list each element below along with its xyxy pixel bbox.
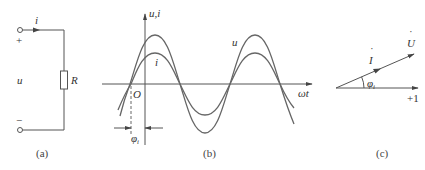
caption-c: (c)	[376, 147, 389, 160]
phase-angle-label: φi	[367, 77, 375, 91]
circuit-panel: i + − u R (a)	[16, 14, 78, 160]
top-terminal	[18, 28, 23, 33]
voltage-dot: ˙	[409, 28, 413, 40]
bottom-terminal	[18, 128, 23, 133]
resistor	[61, 71, 68, 89]
voltage-label: u	[17, 74, 23, 86]
y-axis-label: u,i	[149, 7, 160, 19]
u-curve-label: u	[232, 36, 238, 48]
i-curve-label: i	[155, 56, 158, 68]
resistor-label: R	[70, 74, 78, 86]
current-label: i	[35, 14, 38, 26]
real-axis-label: +1	[407, 92, 419, 104]
current-dot: ˙	[370, 45, 374, 57]
caption-b: (b)	[203, 147, 216, 160]
origin-label: O	[133, 88, 141, 100]
waveform-panel: u,i ωt O u i φi (b)	[102, 7, 312, 160]
current-arrow-icon	[33, 28, 40, 33]
current-phasor-arrow-icon	[373, 68, 381, 73]
plus-label: +	[16, 34, 22, 46]
caption-a: (a)	[36, 147, 49, 160]
phase-angle-arc	[362, 77, 364, 88]
x-axis-label: ωt	[298, 87, 310, 99]
phasor-panel: U ˙ I ˙ φi +1 (c)	[336, 28, 419, 160]
phase-label: φi	[131, 132, 139, 146]
minus-label: −	[16, 114, 22, 126]
